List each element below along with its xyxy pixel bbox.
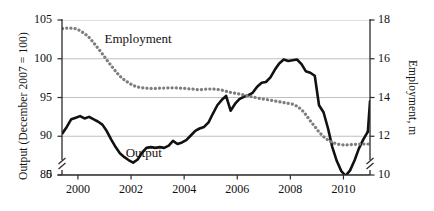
chart-figure: Output (December 2007 = 100) Employment,… — [0, 0, 434, 211]
axis-frame — [0, 0, 434, 211]
axis-break-mark — [59, 163, 66, 169]
axis-break-mark — [367, 163, 374, 169]
